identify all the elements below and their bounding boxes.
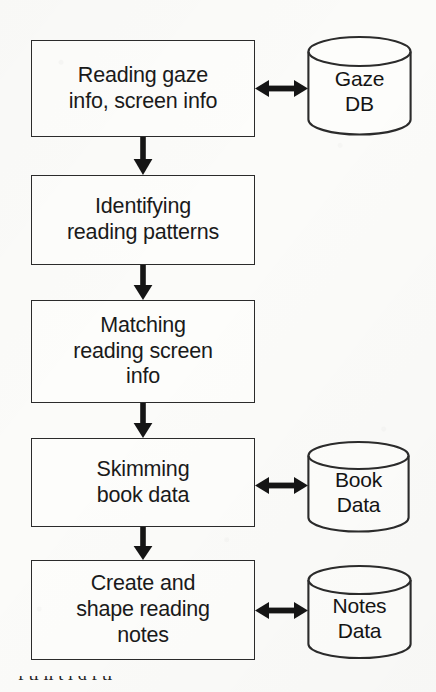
process-box-create-shape-reading-notes: Create and shape reading notes	[31, 560, 255, 660]
data-arrow-bidirectional-gaze-db	[255, 76, 308, 101]
process-box-reading-gaze-info: Reading gaze info, screen info	[31, 40, 255, 137]
process-box-matching-reading-screen-info: Matching reading screen info	[31, 300, 255, 403]
database-label-book-data: Book Data	[306, 468, 411, 518]
data-arrow-bidirectional-notes-data	[255, 598, 308, 623]
flow-arrow-down-1	[132, 137, 154, 176]
process-box-skimming-book-data: Skimming book data	[31, 438, 255, 527]
process-box-identifying-reading-patterns: Identifying reading patterns	[31, 175, 255, 265]
flow-arrow-down-3	[132, 403, 154, 439]
cropped-caption-text: f ti li t l d f ti	[18, 676, 112, 685]
flow-arrow-down-2	[132, 265, 154, 301]
cropped-caption: f ti li t l d f ti	[0, 676, 436, 692]
data-arrow-bidirectional-book-data	[255, 473, 308, 498]
database-cylinder-book-data: Book Data	[306, 440, 411, 533]
flow-arrow-down-4	[132, 527, 154, 561]
database-label-gaze-db: Gaze DB	[306, 67, 413, 117]
flowchart-diagram: Reading gaze info, screen info Identifyi…	[0, 0, 436, 692]
database-label-notes-data: Notes Data	[306, 594, 413, 644]
database-cylinder-notes-data: Notes Data	[306, 564, 413, 660]
database-cylinder-gaze-db: Gaze DB	[306, 35, 413, 136]
